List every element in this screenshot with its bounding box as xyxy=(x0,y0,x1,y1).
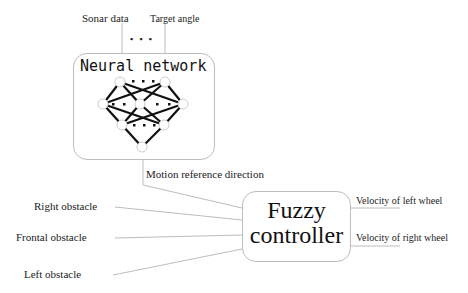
fuzzy-controller-title: Fuzzy controller xyxy=(242,198,351,248)
frontal-obstacle-label: Frontal obstacle xyxy=(16,231,87,243)
left-obstacle-label: Left obstacle xyxy=(24,268,81,280)
velocity-left-wheel-label: Velocity of left wheel xyxy=(356,195,442,206)
fuzzy-title-line1: Fuzzy xyxy=(242,198,351,223)
network-graph xyxy=(0,0,468,293)
velocity-right-wheel-label: Velocity of right wheel xyxy=(356,232,448,243)
diagram-canvas: Sonar data Target angle • • • Neural net… xyxy=(0,0,468,293)
right-obstacle-label: Right obstacle xyxy=(34,200,97,212)
motion-reference-label: Motion reference direction xyxy=(146,168,264,180)
fuzzy-title-line2: controller xyxy=(242,223,351,248)
